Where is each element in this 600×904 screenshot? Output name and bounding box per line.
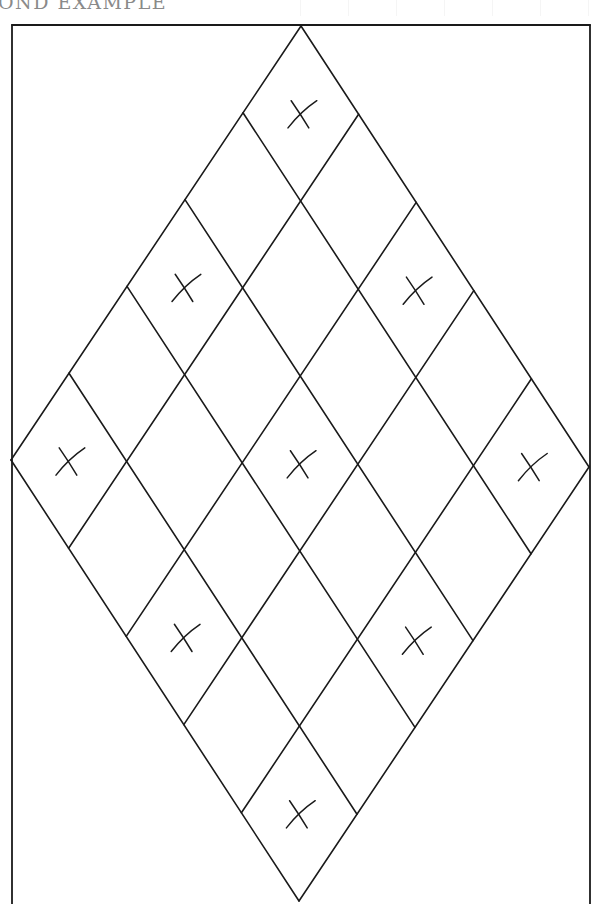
grid-line (241, 379, 531, 813)
cross-mark-icon (172, 274, 201, 301)
cross-mark-icon (288, 101, 317, 128)
cross-mark-icon (286, 801, 315, 828)
cross-mark-icon (403, 277, 432, 304)
grid-line (126, 202, 416, 636)
grid-line (301, 26, 589, 467)
grid-line (11, 26, 301, 460)
grid-line (11, 460, 299, 901)
rhombus-grid-diagram (0, 0, 600, 904)
cross-mark-icon (171, 624, 200, 651)
grid-line (243, 113, 531, 554)
cross-mark-icon (402, 627, 431, 654)
grid-line (299, 467, 589, 901)
grid-line (69, 114, 359, 548)
grid-line (69, 373, 357, 814)
grid-line (185, 200, 473, 641)
grid-line (184, 291, 474, 725)
cross-mark-icon (56, 448, 85, 475)
cross-mark-icon (518, 454, 547, 481)
grid-line (127, 286, 415, 727)
cross-mark-icon (287, 451, 316, 478)
